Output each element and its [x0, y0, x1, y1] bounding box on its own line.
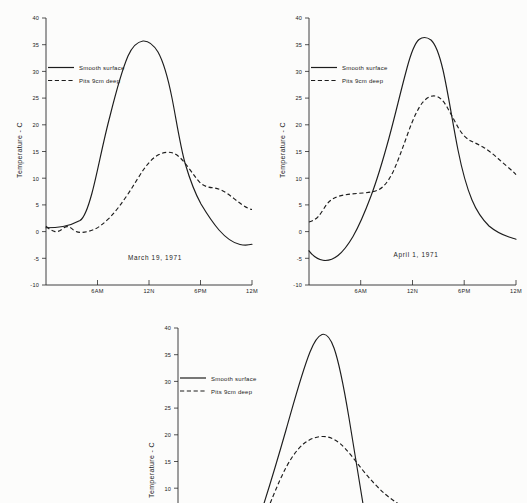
y-tick-label: -5: [34, 256, 39, 262]
x-tick-label: 12N: [143, 288, 154, 294]
y-tick-label: 15: [295, 149, 302, 155]
series-smooth-surface-line: [46, 41, 252, 245]
x-tick-label: 12M: [246, 288, 258, 294]
y-axis-tick-labels: 40 35 30 25 20 15 10 5: [164, 325, 171, 503]
x-tick-label: 6AM: [91, 288, 103, 294]
chart-legend: Smooth surface Pits 9cm deep: [311, 65, 388, 84]
y-tick-label: 10: [164, 486, 171, 492]
x-axis-tick-labels: 6AM 12N 6PM 12M: [91, 288, 258, 294]
y-tick-label: 10: [32, 176, 39, 182]
y-tick-label: -10: [30, 282, 39, 288]
y-axis-ticks: [42, 18, 46, 285]
series-pits-9cm-deep-line: [46, 152, 252, 232]
y-tick-label: 10: [295, 176, 302, 182]
x-tick-label: 6PM: [194, 288, 206, 294]
chart-panel-april: Temperature - C -10 -5 0 5: [263, 0, 527, 303]
chart-panel-march: Temperature - C -10 -5 0: [0, 0, 263, 303]
y-tick-label: 30: [295, 69, 302, 75]
y-tick-label: 40: [295, 15, 302, 21]
series-smooth-surface-line: [309, 37, 516, 260]
chart-april-1-1971: Temperature - C -10 -5 0 5: [263, 0, 527, 303]
figure-page: Temperature - C -10 -5 0: [0, 0, 527, 503]
legend-label-pits-9cm-deep: Pits 9cm deep: [79, 78, 121, 84]
chart-caption-date: March 19, 1971: [128, 254, 182, 261]
y-tick-label: 0: [299, 229, 302, 235]
y-tick-label: 5: [36, 202, 39, 208]
x-tick-label: 6PM: [458, 288, 470, 294]
y-tick-label: 30: [32, 69, 39, 75]
y-tick-label: 35: [295, 42, 302, 48]
y-tick-label: 35: [32, 42, 39, 48]
chart-march-19-1971: Temperature - C -10 -5 0: [0, 0, 263, 303]
y-tick-label: 25: [32, 95, 39, 101]
y-tick-label: 0: [36, 229, 39, 235]
chart-legend: Smooth surface Pits 9cm deep: [180, 376, 257, 395]
y-tick-label: 40: [164, 325, 171, 331]
y-tick-label: -5: [297, 256, 302, 262]
y-tick-label: 40: [32, 15, 39, 21]
y-tick-label: 25: [164, 405, 171, 411]
y-tick-label: 20: [295, 122, 302, 128]
series-pits-9cm-deep-line: [309, 96, 516, 222]
series-pits-9cm-deep-line: [226, 436, 472, 503]
legend-label-pits-9cm-deep: Pits 9cm deep: [211, 389, 253, 395]
legend-label-smooth-surface: Smooth surface: [211, 376, 257, 382]
y-axis-title: Temperature - C: [16, 122, 24, 178]
y-tick-label: 20: [164, 432, 171, 438]
legend-label-smooth-surface: Smooth surface: [79, 65, 125, 71]
y-tick-label: 5: [299, 202, 302, 208]
x-tick-label: 12M: [510, 288, 522, 294]
y-axis-title: Temperature - C: [279, 122, 287, 178]
x-tick-label: 12N: [407, 288, 418, 294]
x-tick-label: 6AM: [354, 288, 366, 294]
x-axis-ticks: [98, 280, 253, 285]
chart-legend: Smooth surface Pits 9cm deep: [48, 65, 125, 84]
y-tick-label: 15: [164, 459, 171, 465]
chart-third-cropped: Temperature - C 40 35 30 25 20 15 10: [132, 310, 527, 503]
series-smooth-surface-line: [226, 334, 385, 503]
y-axis-tick-labels: -10 -5 0 5 10 15 20 25 30 35 40: [293, 15, 302, 288]
y-axis-ticks: [174, 328, 178, 503]
y-tick-label: 25: [295, 95, 302, 101]
legend-label-pits-9cm-deep: Pits 9cm deep: [342, 78, 384, 84]
y-tick-label: 20: [32, 122, 39, 128]
legend-label-smooth-surface: Smooth surface: [342, 65, 388, 71]
x-axis-ticks: [361, 280, 516, 285]
y-tick-label: 35: [164, 352, 171, 358]
y-tick-label: 30: [164, 379, 171, 385]
x-axis-tick-labels: 6AM 12N 6PM 12M: [354, 288, 521, 294]
y-axis-ticks: [305, 18, 309, 285]
y-axis-tick-labels: -10 -5 0 5 10 15 20 25 30 35 40: [30, 15, 39, 288]
y-tick-label: 15: [32, 149, 39, 155]
y-axis-title: Temperature - C: [148, 442, 156, 498]
chart-panel-third-cropped: Temperature - C 40 35 30 25 20 15 10: [132, 310, 527, 503]
y-tick-label: -10: [293, 282, 302, 288]
chart-caption-date: April 1, 1971: [394, 251, 439, 259]
